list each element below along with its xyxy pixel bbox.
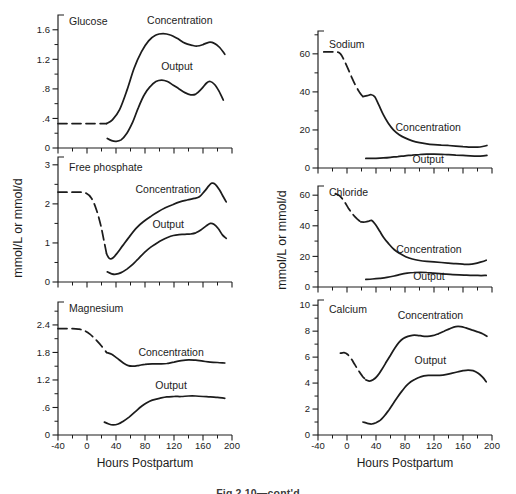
chart-calcium: 1086420-4004080120160200Hours Postpartum… [299, 299, 500, 470]
glucose-y-tick-label: 0 [45, 142, 50, 153]
calcium-concentration-curve-dashed [340, 353, 365, 380]
calcium-x-tick-label: -40 [311, 440, 325, 451]
figure-page: 1.61.2.8.40GlucoseConcentrationOutput321… [0, 0, 516, 494]
chloride-y-axis [318, 186, 324, 287]
calcium-x-tick-label: 0 [344, 440, 349, 451]
calcium-panel-title: Calcium [329, 303, 367, 315]
calcium-y-axis [318, 300, 324, 435]
phosphate-output-curve [107, 223, 226, 274]
magnesium-y-tick-label: 2.4 [37, 319, 50, 330]
glucose-y-tick-label: .4 [42, 113, 50, 124]
phosphate-concentration-label: Concentration [136, 183, 202, 195]
glucose-y-tick-label: 1.6 [37, 24, 50, 35]
chart-chloride: 6040200ChlorideConcentrationOutput [299, 186, 492, 293]
phosphate-y-tick-label: 1 [45, 237, 50, 248]
sodium-panel-title: Sodium [329, 38, 365, 50]
chloride-y-tick-label: 0 [305, 281, 310, 292]
glucose-output-curve [107, 80, 223, 141]
chloride-y-tick-label: 60 [299, 189, 310, 200]
magnesium-x-tick-label: 80 [140, 440, 151, 451]
left-y-axis-title: mmol/L or mmol/d [11, 178, 25, 278]
chloride-concentration-label: Concentration [396, 243, 462, 255]
chloride-y-tick-label: 40 [299, 220, 310, 231]
phosphate-panel-title: Free phosphate [69, 161, 143, 173]
sodium-y-tick-label: 60 [299, 48, 310, 59]
phosphate-output-label: Output [152, 218, 184, 230]
glucose-concentration-curve [107, 34, 225, 124]
magnesium-concentration-label: Concentration [138, 346, 204, 358]
phosphate-y-tick-label: 0 [45, 276, 50, 287]
sodium-concentration-curve-dashed [324, 52, 363, 97]
calcium-x-tick-label: 120 [426, 440, 442, 451]
sodium-y-tick-label: 40 [299, 86, 310, 97]
right-y-axis-title: mmol/L or mmol/d [275, 190, 289, 290]
six-panel-electrolyte-chart: 1.61.2.8.40GlucoseConcentrationOutput321… [0, 0, 516, 494]
calcium-output-curve [363, 370, 486, 424]
calcium-y-tick-label: 2 [305, 403, 310, 414]
calcium-x-axis-title: Hours Postpartum [357, 456, 454, 470]
magnesium-x-tick-label: 160 [195, 440, 211, 451]
calcium-y-tick-label: 10 [299, 299, 310, 310]
glucose-y-tick-label: 1.2 [37, 54, 50, 65]
magnesium-output-curve [104, 396, 224, 425]
calcium-concentration-label: Concentration [398, 309, 464, 321]
phosphate-y-axis [58, 157, 64, 282]
calcium-x-tick-label: 160 [455, 440, 471, 451]
calcium-y-tick-label: 6 [305, 351, 310, 362]
magnesium-x-axis-title: Hours Postpartum [97, 456, 194, 470]
magnesium-output-label: Output [155, 379, 187, 391]
sodium-concentration-label: Concentration [396, 121, 462, 133]
magnesium-concentration-curve-dashed [58, 329, 107, 353]
chloride-concentration-curve [361, 220, 486, 264]
chart-phosphate: 3210Free phosphateConcentrationOutput [45, 157, 232, 288]
calcium-x-tick-label: 80 [400, 440, 411, 451]
magnesium-x-tick-label: -40 [51, 440, 65, 451]
chloride-panel-title: Chloride [329, 186, 368, 198]
magnesium-y-tick-label: 1.2 [37, 374, 50, 385]
magnesium-x-tick-label: 0 [84, 440, 89, 451]
chloride-y-tick-label: 20 [299, 251, 310, 262]
magnesium-x-tick-label: 200 [224, 440, 240, 451]
calcium-x-tick-label: 40 [371, 440, 382, 451]
chart-sodium: 6040200SodiumConcentrationOutput [299, 31, 492, 174]
phosphate-concentration-curve-dashed [58, 192, 107, 254]
magnesium-x-tick-label: 40 [111, 440, 122, 451]
magnesium-x-tick-label: 120 [166, 440, 182, 451]
glucose-y-tick-label: .8 [42, 83, 50, 94]
calcium-x-tick-label: 200 [484, 440, 500, 451]
chart-glucose: 1.61.2.8.40GlucoseConcentrationOutput [37, 14, 232, 154]
glucose-panel-title: Glucose [69, 15, 108, 27]
magnesium-y-axis [58, 302, 64, 435]
calcium-y-tick-label: 4 [305, 377, 310, 388]
chart-magnesium: 2.41.81.2.60-4004080120160200Hours Postp… [37, 302, 240, 470]
sodium-y-tick-label: 20 [299, 124, 310, 135]
glucose-concentration-label: Concentration [147, 14, 213, 26]
phosphate-y-tick-label: 3 [45, 159, 50, 170]
magnesium-y-tick-label: 0 [45, 429, 50, 440]
chloride-output-label: Output [413, 270, 445, 282]
magnesium-y-tick-label: 1.8 [37, 347, 50, 358]
figure-caption: Fig 2.10—cont'd [0, 487, 516, 494]
sodium-y-tick-label: 0 [305, 162, 310, 173]
magnesium-panel-title: Magnesium [69, 302, 124, 314]
sodium-output-label: Output [412, 153, 444, 165]
calcium-y-tick-label: 0 [305, 429, 310, 440]
calcium-output-label: Output [415, 354, 447, 366]
phosphate-y-tick-label: 2 [45, 198, 50, 209]
glucose-output-label: Output [161, 60, 193, 72]
calcium-y-tick-label: 8 [305, 325, 310, 336]
glucose-y-axis [58, 15, 64, 148]
magnesium-y-tick-label: .6 [42, 402, 50, 413]
